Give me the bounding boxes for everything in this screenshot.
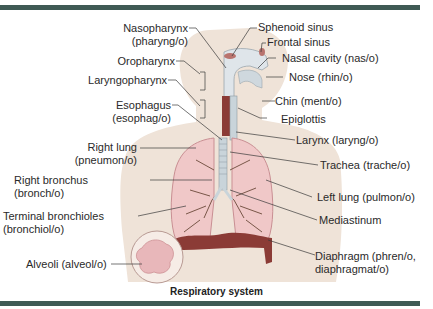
label-text: Sphenoid sinus <box>258 21 333 34</box>
label-text: Nose (rhin/o) <box>289 71 353 84</box>
label-esophagus: Esophagus (esophag/o) <box>112 99 171 125</box>
label-laryngopharynx: Laryngopharynx <box>88 74 167 87</box>
label-text: Frontal sinus <box>267 36 330 49</box>
label-chin: Chin (ment/o) <box>275 95 342 108</box>
label-term: (bronchiol/o) <box>3 223 104 236</box>
label-larynx: Larynx (laryng/o) <box>296 134 379 147</box>
label-text: Chin (ment/o) <box>275 95 342 108</box>
alveoli-inset <box>131 231 183 283</box>
label-text: Esophagus <box>112 99 171 112</box>
label-oropharynx: Oropharynx <box>118 55 175 68</box>
label-right-lung: Right lung (pneumon/o) <box>75 141 137 167</box>
label-terminal-bronchioles: Terminal bronchioles (bronchiol/o) <box>3 210 104 236</box>
label-mediastinum: Mediastinum <box>319 214 381 227</box>
label-term: diaphragmat/o) <box>315 263 416 276</box>
label-term: (esophag/o) <box>112 112 171 125</box>
label-text: Epiglottis <box>281 113 326 126</box>
label-text: Right bronchus <box>14 174 88 187</box>
label-left-lung: Left lung (pulmon/o) <box>317 191 415 204</box>
label-nasopharynx: Nasopharynx (pharyng/o) <box>123 22 188 48</box>
label-alveoli: Alveoli (alveol/o) <box>26 258 107 271</box>
label-text: Right lung <box>75 141 137 154</box>
label-trachea: Trachea (trache/o) <box>320 159 410 172</box>
label-text: Oropharynx <box>118 55 175 68</box>
label-text: Larynx (laryng/o) <box>296 134 379 147</box>
label-text: Alveoli (alveol/o) <box>26 258 107 271</box>
label-term: (pneumon/o) <box>75 154 137 167</box>
label-text: Mediastinum <box>319 214 381 227</box>
label-right-bronchus: Right bronchus (bronch/o) <box>14 174 88 200</box>
label-epiglottis: Epiglottis <box>281 113 326 126</box>
trachea <box>219 138 227 190</box>
figure-caption: Respiratory system <box>0 286 433 297</box>
label-sphenoid-sinus: Sphenoid sinus <box>258 21 333 34</box>
label-text: Laryngopharynx <box>88 74 167 87</box>
label-term: (bronch/o) <box>14 187 88 200</box>
bottom-frame-bar <box>0 301 420 306</box>
label-frontal-sinus: Frontal sinus <box>267 36 330 49</box>
label-nasal-cavity: Nasal cavity (nas/o) <box>282 52 379 65</box>
label-text: Trachea (trache/o) <box>320 159 410 172</box>
label-text: Diaphragm (phren/o, <box>315 250 416 263</box>
label-term: (pharyng/o) <box>123 35 188 48</box>
label-text: Nasopharynx <box>123 22 188 35</box>
label-text: Left lung (pulmon/o) <box>317 191 415 204</box>
label-nose: Nose (rhin/o) <box>289 71 353 84</box>
label-text: Terminal bronchioles <box>3 210 104 223</box>
label-text: Nasal cavity (nas/o) <box>282 52 379 65</box>
label-diaphragm: Diaphragm (phren/o, diaphragmat/o) <box>315 250 416 276</box>
